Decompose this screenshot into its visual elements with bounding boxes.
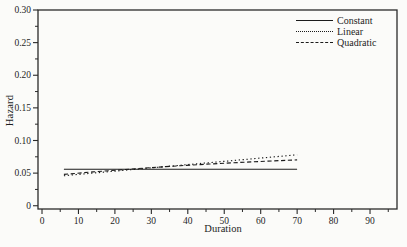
linear-line-swatch-icon <box>296 31 333 32</box>
x-tick-label: 30 <box>147 216 157 226</box>
legend-item-quadratic: Quadratic <box>296 37 400 48</box>
legend: Constant Linear Quadratic <box>296 15 400 48</box>
y-axis-title: Hazard <box>4 87 15 135</box>
x-tick-label: 20 <box>110 216 120 226</box>
legend-item-constant: Constant <box>296 15 400 26</box>
x-tick-label: 60 <box>256 216 266 226</box>
legend-item-linear: Linear <box>296 26 400 37</box>
y-tick-label: 0.25 <box>14 38 31 48</box>
hazard-figure: 010203040506070809000.050.100.150.200.25… <box>0 0 407 247</box>
constant-line-swatch-icon <box>296 20 333 21</box>
legend-label-constant: Constant <box>337 15 373 26</box>
x-axis-title: Duration <box>190 223 256 234</box>
y-tick-label: 0.30 <box>14 5 31 15</box>
quadratic-line-swatch-icon <box>296 42 333 43</box>
y-tick-label: 0.10 <box>14 136 31 146</box>
y-tick-label: 0.05 <box>14 168 31 178</box>
y-tick-label: 0.15 <box>14 103 31 113</box>
x-tick-label: 70 <box>292 216 302 226</box>
legend-label-linear: Linear <box>337 26 363 37</box>
x-tick-label: 10 <box>74 216 84 226</box>
x-tick-label: 80 <box>329 216 339 226</box>
y-tick-label: 0 <box>26 201 31 211</box>
legend-label-quadratic: Quadratic <box>337 37 376 48</box>
x-tick-label: 0 <box>40 216 45 226</box>
x-tick-label: 90 <box>365 216 375 226</box>
y-tick-label: 0.20 <box>14 70 31 80</box>
